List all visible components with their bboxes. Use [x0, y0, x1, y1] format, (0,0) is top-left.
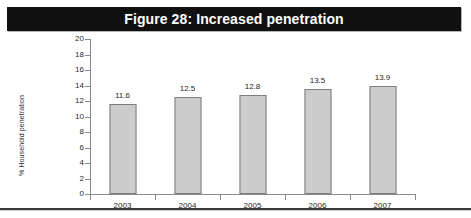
bar[interactable]	[369, 86, 396, 194]
x-axis-tick-mark	[90, 195, 91, 200]
y-axis-title: % Household penetration	[18, 81, 25, 191]
bar-group: 12.8	[220, 39, 285, 194]
bar[interactable]	[174, 97, 201, 194]
bar-group: 13.5	[285, 39, 350, 194]
x-axis-tick-mark	[350, 195, 351, 200]
y-axis-tick-label: 0	[60, 190, 84, 198]
y-axis-tick-label: 6	[60, 144, 84, 152]
bar[interactable]	[304, 89, 331, 194]
bar-value-label: 12.8	[245, 83, 261, 91]
bar-value-label: 12.5	[180, 85, 196, 93]
figure-title-text: Figure 28: Increased penetration	[124, 12, 343, 26]
y-axis-tick-label: 12	[60, 97, 84, 105]
bar-group: 11.6	[90, 39, 155, 194]
bar-chart: % Household penetration 0246810121416182…	[0, 31, 471, 209]
bar-group: 13.9	[350, 39, 415, 194]
y-axis-tick-label: 20	[60, 35, 84, 43]
y-axis-tick-label: 2	[60, 175, 84, 183]
bottom-rule-divider	[0, 208, 471, 211]
y-axis-tick-label: 4	[60, 159, 84, 167]
bar-value-label: 13.9	[375, 74, 391, 82]
x-axis-tick-mark	[285, 195, 286, 200]
bar-group: 12.5	[155, 39, 220, 194]
y-axis-tick-label: 8	[60, 128, 84, 136]
bar[interactable]	[109, 104, 136, 194]
y-axis-tick-label: 14	[60, 82, 84, 90]
x-axis-tick-mark	[155, 195, 156, 200]
bar[interactable]	[239, 95, 266, 194]
y-axis-tick-label: 16	[60, 66, 84, 74]
bar-value-label: 11.6	[115, 92, 130, 100]
y-axis-tick-label: 10	[60, 113, 84, 121]
x-axis-tick-mark	[415, 195, 416, 200]
plot-area: 11.612.512.813.513.9	[90, 39, 415, 194]
y-axis-tick-labels: 02468101214161820	[60, 39, 84, 194]
y-axis-tick-label: 18	[60, 51, 84, 59]
bar-value-label: 13.5	[310, 77, 326, 85]
figure-title-bar: Figure 28: Increased penetration	[7, 7, 461, 31]
x-axis-tick-mark	[220, 195, 221, 200]
